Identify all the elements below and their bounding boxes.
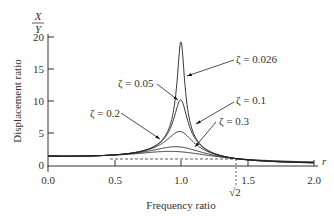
x-tick-label: 2.0 bbox=[307, 174, 321, 186]
y-axis-label: Displacement ratio bbox=[11, 59, 23, 143]
y-tick-label: 15 bbox=[33, 63, 45, 75]
annotation-z05: ζ = 0.05 bbox=[118, 77, 154, 90]
y-tick-label: 20 bbox=[33, 31, 45, 43]
annotation-z026: ζ = 0.026 bbox=[236, 53, 278, 66]
annotation-z2: ζ = 0.2 bbox=[90, 107, 120, 120]
y-tick-label: 5 bbox=[39, 127, 45, 139]
x-tick-label: 0.0 bbox=[41, 174, 55, 186]
x-tick-label: 0.5 bbox=[108, 174, 122, 186]
y-tick-label: 10 bbox=[33, 95, 45, 107]
y-fraction-numerator: X bbox=[34, 10, 43, 22]
x-axis-label: Frequency ratio bbox=[146, 199, 216, 211]
annotation-z3: ζ = 0.3 bbox=[219, 115, 250, 128]
x-axis-symbol: r bbox=[322, 155, 327, 167]
sqrt2-label: √2 bbox=[229, 186, 241, 198]
x-tick-label: 1.0 bbox=[174, 174, 188, 186]
chart: X Y Displacement ratio 20 15 10 5 0 0.0 … bbox=[0, 0, 334, 216]
y-tick-label: 0 bbox=[39, 159, 45, 171]
x-tick-label: 1.5 bbox=[241, 174, 255, 186]
annotation-z1: ζ = 0.1 bbox=[236, 94, 266, 107]
y-ticks bbox=[48, 37, 54, 133]
